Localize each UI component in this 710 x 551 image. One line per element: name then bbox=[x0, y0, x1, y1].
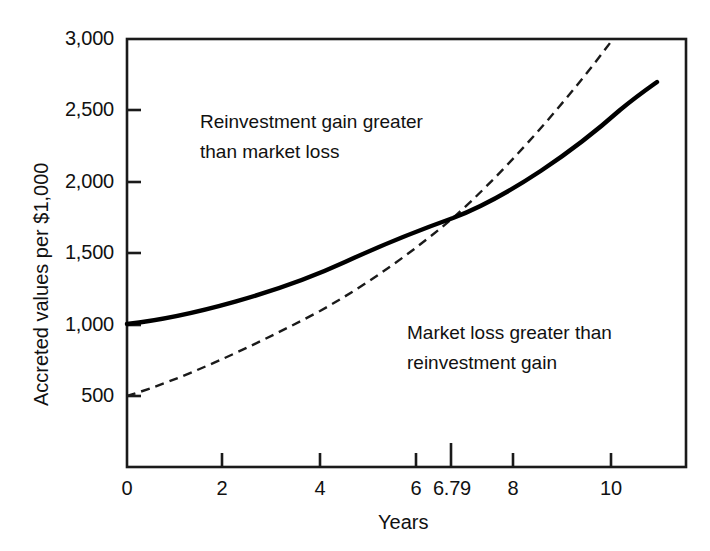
x-axis-title: Years bbox=[378, 511, 428, 534]
chart-plot-area bbox=[0, 0, 710, 551]
y-tick-label-1000: 1,000 bbox=[14, 313, 114, 336]
y-axis-title: Accreted values per $1,000 bbox=[30, 163, 53, 407]
market-loss-annotation: Market loss greater than reinvestment ga… bbox=[407, 318, 612, 378]
y-tick-label-500: 500 bbox=[14, 384, 114, 407]
y-tick-label-3000: 3,000 bbox=[14, 27, 114, 50]
x-tick-label-4: 4 bbox=[296, 477, 344, 500]
y-axis-ticks bbox=[127, 110, 141, 396]
x-tick-label-8: 8 bbox=[489, 477, 537, 500]
plot-frame bbox=[127, 39, 686, 467]
x-axis-ticks bbox=[222, 453, 611, 467]
x-tick-label-0: 0 bbox=[103, 477, 151, 500]
x-tick-label-2: 2 bbox=[198, 477, 246, 500]
reinvestment-gain-annotation: Reinvestment gain greater than market lo… bbox=[200, 107, 423, 167]
y-tick-label-2500: 2,500 bbox=[14, 98, 114, 121]
chart-figure: 3,000 2,500 2,000 1,500 1,000 500 0 2 4 … bbox=[0, 0, 710, 551]
x-tick-label-10: 10 bbox=[587, 477, 635, 500]
y-tick-label-1500: 1,500 bbox=[14, 241, 114, 264]
x-tick-label-679: 6.79 bbox=[421, 477, 483, 500]
y-tick-label-2000: 2,000 bbox=[14, 170, 114, 193]
